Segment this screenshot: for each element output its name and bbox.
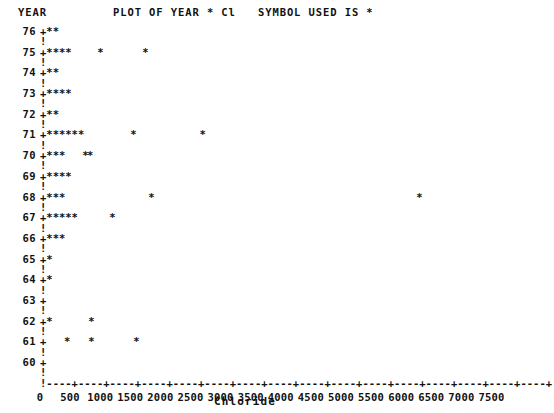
axis-connector-row: ! bbox=[0, 223, 554, 233]
data-point-star: * bbox=[148, 192, 154, 202]
plot-row-origin-run: +****** bbox=[40, 129, 84, 139]
y-axis-tick-label: 76 bbox=[0, 26, 36, 36]
plot-row: 62+** bbox=[0, 316, 554, 326]
plot-row: 60+ bbox=[0, 357, 554, 367]
x-axis-rule-row: !----+----+----+----+----+----+----+----… bbox=[0, 378, 554, 390]
axis-connector-row: ! bbox=[0, 347, 554, 357]
symbol-legend: SYMBOL USED IS * bbox=[258, 4, 374, 20]
axis-connector-char: ! bbox=[40, 243, 46, 253]
plot-row: 65+* bbox=[0, 254, 554, 264]
axis-connector-row: ! bbox=[0, 181, 554, 191]
axis-connector-row: ! bbox=[0, 285, 554, 295]
data-point-star: * bbox=[142, 47, 148, 57]
axis-connector-row: ! bbox=[0, 305, 554, 315]
plot-row: 66+*** bbox=[0, 233, 554, 243]
plot-row: 70+***** bbox=[0, 150, 554, 160]
y-axis-tick-label: 64 bbox=[0, 274, 36, 284]
y-axis-tick-label: 71 bbox=[0, 129, 36, 139]
y-axis-tick-label: 74 bbox=[0, 67, 36, 77]
plot-body: 76+**!75+******!74+**!73+****!72+**!71+*… bbox=[0, 26, 554, 404]
y-axis-tick-label: 60 bbox=[0, 357, 36, 367]
y-axis-tick-label: 69 bbox=[0, 171, 36, 181]
plot-row: 69+**** bbox=[0, 171, 554, 181]
plot-row: 61+*** bbox=[0, 336, 554, 346]
axis-connector-row: ! bbox=[0, 243, 554, 253]
axis-connector-row: ! bbox=[0, 36, 554, 46]
axis-connector-row: ! bbox=[0, 57, 554, 67]
data-point-star: * bbox=[64, 336, 70, 346]
x-axis-title-text: Chloride bbox=[214, 395, 276, 408]
data-point-star: * bbox=[88, 336, 94, 346]
y-axis-tick-label: 70 bbox=[0, 150, 36, 160]
axis-connector-row: ! bbox=[0, 202, 554, 212]
y-axis-tick-label: 65 bbox=[0, 254, 36, 264]
plot-row: 75+****** bbox=[0, 47, 554, 57]
axis-connector-row: ! bbox=[0, 98, 554, 108]
data-point-star: * bbox=[130, 129, 136, 139]
plot-header: YEAR PLOT OF YEAR * Cl SYMBOL USED IS * bbox=[0, 4, 554, 20]
axis-connector-row: ! bbox=[0, 326, 554, 336]
x-axis-title: Chloride bbox=[0, 395, 554, 409]
axis-connector-row: ! bbox=[0, 160, 554, 170]
plot-row-origin-run: +***** bbox=[40, 212, 78, 222]
data-point-star: * bbox=[87, 150, 93, 160]
y-axis-tick-label: 61 bbox=[0, 336, 36, 346]
y-axis-tick-label: 67 bbox=[0, 212, 36, 222]
plot-row: 71+******** bbox=[0, 129, 554, 139]
data-point-star: * bbox=[97, 47, 103, 57]
y-axis-title: YEAR bbox=[18, 4, 47, 20]
axis-connector-row: ! bbox=[0, 264, 554, 274]
data-point-star: * bbox=[88, 316, 94, 326]
data-point-star: * bbox=[200, 129, 206, 139]
plot-row: 76+** bbox=[0, 26, 554, 36]
axis-connector-char: ! bbox=[40, 181, 46, 191]
y-axis-tick-label: 73 bbox=[0, 88, 36, 98]
plot-row: 63+ bbox=[0, 295, 554, 305]
y-axis-tick-label: 63 bbox=[0, 295, 36, 305]
axis-connector-row: ! bbox=[0, 78, 554, 88]
plot-row: 74+** bbox=[0, 67, 554, 77]
y-axis-tick-label: 66 bbox=[0, 233, 36, 243]
plot-row: 64+* bbox=[0, 274, 554, 284]
data-point-star: * bbox=[133, 336, 139, 346]
y-axis-tick-label: 68 bbox=[0, 192, 36, 202]
data-point-star: * bbox=[416, 192, 422, 202]
plot-row: 68+***** bbox=[0, 192, 554, 202]
y-axis-tick-label: 62 bbox=[0, 316, 36, 326]
plot-row: 72+** bbox=[0, 109, 554, 119]
character-scatter-plot: YEAR PLOT OF YEAR * Cl SYMBOL USED IS * … bbox=[0, 0, 554, 413]
plot-row: 73+**** bbox=[0, 88, 554, 98]
x-axis-rule: !----+----+----+----+----+----+----+----… bbox=[40, 378, 552, 389]
y-axis-tick-label: 72 bbox=[0, 109, 36, 119]
data-point-star: * bbox=[109, 212, 115, 222]
plot-row: 67+****** bbox=[0, 212, 554, 222]
plot-title: PLOT OF YEAR * Cl bbox=[113, 4, 236, 20]
y-axis-tick-label: 75 bbox=[0, 47, 36, 57]
